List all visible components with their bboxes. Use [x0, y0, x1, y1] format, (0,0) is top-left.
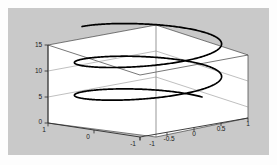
- y-ticklabel-0: 0: [82, 134, 94, 141]
- x-ticklabel-1: 1: [242, 121, 254, 128]
- x-ticklabel-05: 0.5: [213, 126, 229, 133]
- z-ticklabel-10: 10: [30, 68, 42, 75]
- y-ticklabel-1: 1: [38, 127, 50, 134]
- x-ticklabel-m05: -0.5: [160, 136, 178, 143]
- z-ticklabel-15: 15: [30, 42, 42, 49]
- z-ticklabel-5: 5: [30, 94, 42, 101]
- x-ticklabel-0: 0: [188, 131, 200, 138]
- x-ticklabel-m1: -1: [145, 141, 159, 148]
- z-ticklabel-0: 0: [30, 119, 42, 126]
- screenshot-root: 15 10 5 0 1 0 -1 -1 -0.5 0 0.5 1: [0, 0, 277, 165]
- y-ticklabel-m1: -1: [126, 141, 140, 148]
- matlab-figure-canvas: 15 10 5 0 1 0 -1 -1 -0.5 0 0.5 1: [8, 8, 269, 155]
